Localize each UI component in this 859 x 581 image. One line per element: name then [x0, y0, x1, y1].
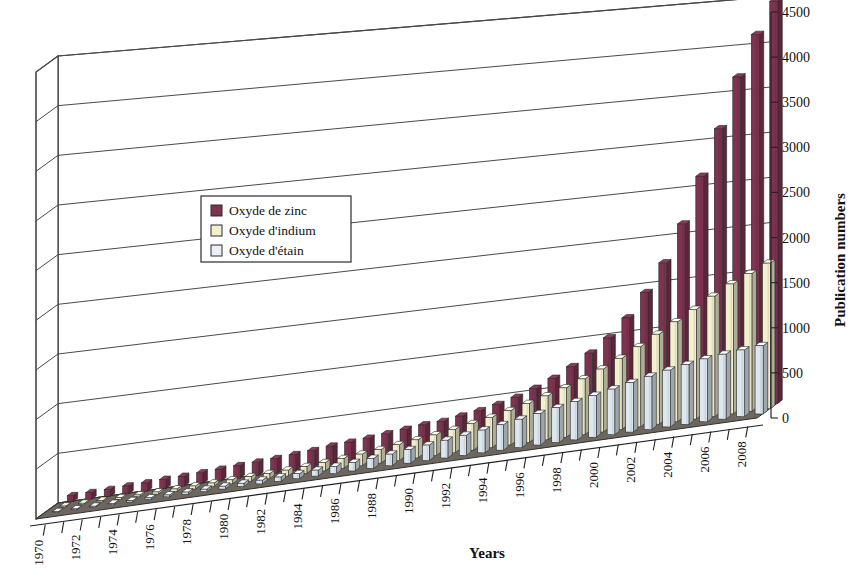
bar-highlight: [482, 430, 484, 453]
x-tick: [228, 499, 230, 510]
bar-highlight: [341, 459, 342, 469]
bar: [215, 469, 221, 481]
bar-highlight: [686, 365, 688, 425]
x-tick: [395, 476, 397, 487]
bar: [123, 486, 129, 494]
bar: [71, 509, 77, 510]
legend-label: Oxyde d'étain: [229, 243, 304, 258]
bar-side-face: [504, 421, 509, 450]
bar: [478, 430, 485, 453]
bar: [90, 506, 96, 507]
bar: [293, 474, 300, 479]
bar-highlight: [501, 425, 503, 450]
bar-highlight: [126, 486, 127, 494]
x-tick-label: 1972: [68, 535, 83, 561]
bar-highlight: [175, 489, 176, 492]
bar: [274, 477, 281, 481]
bar-highlight: [360, 454, 361, 465]
bar-highlight: [286, 470, 287, 476]
bar-highlight: [349, 442, 350, 463]
x-tick: [561, 452, 563, 463]
x-tick-label: 1990: [401, 488, 416, 514]
x-tick: [173, 507, 175, 518]
bar-highlight: [219, 469, 220, 481]
bar-highlight: [71, 496, 72, 502]
bar-side-face: [689, 361, 694, 424]
x-tick-label: 1988: [364, 493, 379, 519]
bar: [164, 495, 170, 497]
bar-highlight: [427, 445, 429, 461]
bar-highlight: [519, 419, 521, 447]
bar-highlight: [56, 512, 57, 513]
x-tick: [321, 486, 323, 497]
x-tick-label: 2002: [623, 457, 638, 483]
bar-highlight: [415, 440, 417, 458]
left-wall: [36, 56, 58, 519]
bar: [86, 493, 92, 499]
x-tick: [210, 501, 212, 512]
x-tick-label: 1980: [216, 514, 231, 540]
y-tick-label: 3000: [782, 140, 810, 155]
bar-highlight: [508, 411, 510, 445]
bar: [681, 365, 689, 425]
y-axis-title: Publication numbers: [832, 193, 848, 327]
x-tick: [117, 514, 119, 525]
bar-highlight: [267, 474, 268, 479]
bar-highlight: [453, 430, 455, 453]
bar-chart-3d: 050010001500200025003000350040004500 197…: [0, 0, 859, 581]
bar-side-face: [522, 416, 527, 448]
bar-highlight: [138, 495, 139, 497]
bar-highlight: [378, 450, 380, 463]
x-tick: [247, 496, 249, 507]
bar: [141, 483, 147, 491]
y-tick-label: 1000: [782, 321, 810, 336]
bar-highlight: [723, 354, 725, 419]
bar-highlight: [334, 466, 335, 473]
bar: [311, 470, 318, 476]
legend-label: Oxyde de zinc: [229, 203, 307, 218]
x-tick: [505, 460, 507, 471]
bar-highlight: [330, 446, 331, 465]
y-tick-label: 2000: [782, 231, 810, 246]
bar-highlight: [64, 506, 65, 507]
bar-highlight: [353, 463, 354, 471]
bar: [755, 346, 763, 414]
x-tick: [616, 444, 618, 455]
x-tick: [653, 439, 655, 450]
bar-highlight: [312, 451, 313, 468]
x-tick: [672, 437, 674, 448]
bar-highlight: [223, 486, 224, 489]
bar-highlight: [667, 370, 669, 427]
x-tick-label: 1970: [31, 540, 46, 566]
x-tick: [284, 491, 286, 502]
bar: [182, 492, 188, 494]
x-tick: [450, 468, 452, 479]
bar: [496, 425, 503, 450]
bar-highlight: [297, 474, 298, 479]
bar-highlight: [556, 408, 558, 443]
x-tick: [154, 509, 156, 520]
bar-highlight: [230, 480, 231, 484]
bar-highlight: [186, 492, 187, 494]
bar-highlight: [101, 500, 102, 501]
bar-highlight: [182, 476, 183, 486]
bar-highlight: [434, 435, 436, 455]
bar: [160, 479, 166, 488]
bar: [108, 503, 114, 504]
bar-highlight: [390, 454, 392, 466]
bar: [533, 414, 540, 445]
bar-highlight: [249, 477, 250, 481]
x-tick-label: 2008: [734, 441, 749, 467]
bar: [104, 490, 110, 497]
x-tick: [191, 504, 193, 515]
y-tick-label: 500: [782, 366, 803, 381]
bar-highlight: [256, 462, 257, 476]
bar-highlight: [75, 509, 76, 510]
y-tick-label: 3500: [782, 95, 810, 110]
bar-side-face: [763, 342, 768, 414]
x-tick: [431, 470, 433, 481]
bar-highlight: [397, 445, 399, 461]
bar-highlight: [408, 450, 410, 463]
x-tick: [413, 473, 415, 484]
bar: [97, 500, 103, 501]
